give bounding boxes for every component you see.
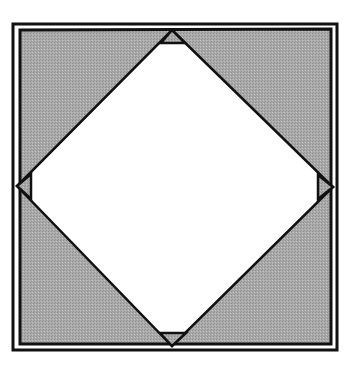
diagram-canvas: Square with inscribed diamond and corner… (0, 0, 351, 365)
diagram-svg (0, 0, 351, 365)
